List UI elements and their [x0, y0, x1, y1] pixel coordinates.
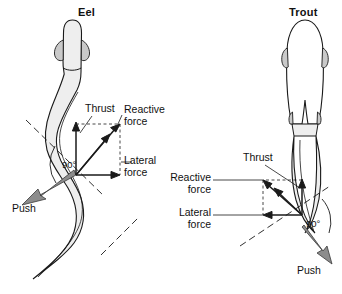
trout-push-arrow [302, 225, 332, 264]
trout-axis-dashed-lines [240, 186, 330, 246]
trout-lateral-force-vector [263, 211, 302, 218]
trout-leader-lines [213, 165, 300, 215]
trout-right-angle-arc [322, 199, 331, 233]
trout-pectoral-fin-left [282, 48, 288, 68]
trout-reactive-force-label: Reactive force [170, 172, 211, 195]
trout-body [282, 20, 329, 233]
trout-thrust-label: Thrust [243, 152, 273, 164]
trout-body-shape [287, 20, 324, 124]
trout-right-angle-label: 90° [306, 218, 320, 229]
eel-thrust-label: Thrust [85, 103, 115, 115]
swimming-mechanics-figure: Eel Trout Thrust Reactive force Lateral … [0, 0, 342, 294]
trout-panel-drawing [0, 0, 342, 294]
trout-tail-joint [292, 124, 318, 136]
eel-right-angle-label: 90° [62, 159, 76, 170]
trout-panel-title: Trout [289, 6, 318, 18]
eel-lateral-force-label: Lateral force [124, 155, 156, 178]
trout-axis [240, 186, 330, 246]
eel-panel-title: Eel [78, 6, 95, 18]
trout-push-label: Push [297, 265, 321, 277]
eel-reactive-force-label: Reactive force [124, 104, 165, 127]
trout-lateral-force-label: Lateral force [179, 207, 211, 230]
eel-push-label: Push [12, 203, 36, 215]
trout-pectoral-fin-right [322, 48, 328, 68]
